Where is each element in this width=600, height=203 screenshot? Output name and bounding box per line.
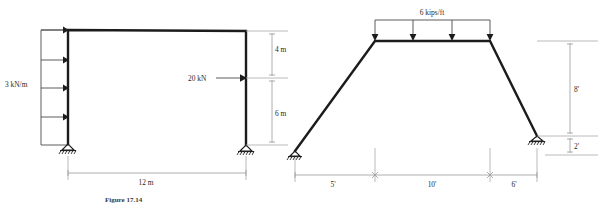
left-frame-members [68,30,246,145]
dim-8ft-label: 8' [574,85,580,94]
left-horizontal-dimension [68,156,246,180]
right-distributed-load [372,20,494,41]
support-right-base [237,145,254,155]
support-left-base [59,144,76,154]
figure-caption: Figure 17.14 [105,196,143,203]
left-frame-group: 3 kN/m 20 kN [5,27,288,203]
point-load-label: 20 kN [188,74,207,83]
left-point-load [216,74,247,82]
dim-6m-label: 6 m [275,109,287,118]
right-distributed-load-label: 6 kips/ft [420,8,445,17]
structural-diagram: 3 kN/m 20 kN [0,0,600,203]
left-distributed-load [41,27,69,145]
left-distributed-load-label: 3 kN/m [5,80,28,89]
dim-2ft-label: 2' [574,142,580,151]
right-vertical-dimensions [537,41,598,155]
right-frame-members [295,41,537,151]
right-support-left-base [287,151,302,160]
dim-6ft-label: 6' [511,180,517,189]
right-frame-group: 6 kips/ft 5' 10' [287,8,598,189]
right-horizontal-dimensions [295,148,537,182]
dim-10ft-label: 10' [428,180,437,189]
dim-4m-label: 4 m [275,45,287,54]
dim-12m-label: 12 m [139,178,154,187]
figure-canvas: 3 kN/m 20 kN [0,0,600,203]
dim-5ft-label: 5' [330,180,336,189]
